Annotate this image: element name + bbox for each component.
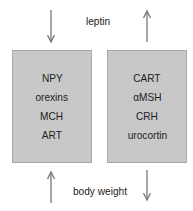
arrow-down-icon xyxy=(48,10,55,42)
body-weight-label: body weight xyxy=(65,185,135,197)
box-item: NPY xyxy=(42,69,63,88)
box-item: αMSH xyxy=(133,88,161,107)
arrow-up-icon xyxy=(144,11,151,42)
box-item: CRH xyxy=(136,107,158,126)
box-item: urocortin xyxy=(127,126,166,145)
box-item: MCH xyxy=(40,107,63,126)
box-item: ART xyxy=(42,126,62,145)
box-item: CART xyxy=(133,69,160,88)
box-item: orexins xyxy=(36,88,69,107)
arrow-down-icon xyxy=(144,170,151,200)
leptin-label: leptin xyxy=(74,15,122,27)
arrow-up-icon xyxy=(48,172,55,203)
orexigenic-box: NPY orexins MCH ART xyxy=(12,50,92,163)
anorexigenic-box: CART αMSH CRH urocortin xyxy=(107,50,187,163)
